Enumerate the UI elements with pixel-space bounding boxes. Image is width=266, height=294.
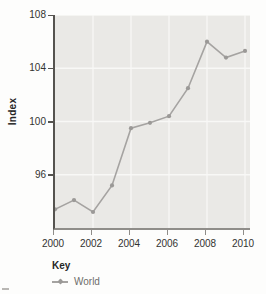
legend-row: World: [52, 276, 100, 287]
x-tick-mark: [91, 230, 93, 235]
line-marker-icon: [52, 278, 68, 285]
x-tick-label: 2008: [188, 238, 222, 249]
y-tick-label: 108: [12, 9, 46, 20]
x-tick-mark: [53, 230, 55, 235]
x-tick-mark: [243, 230, 245, 235]
x-tick-label: 2006: [150, 238, 184, 249]
series-line-world: [55, 42, 245, 212]
data-point: [72, 198, 76, 202]
legend-series-label: World: [74, 276, 100, 287]
x-tick-label: 2000: [36, 238, 70, 249]
legend: Key World: [52, 260, 100, 287]
plot-area: [53, 15, 250, 230]
data-point: [91, 210, 95, 214]
data-point: [129, 126, 133, 130]
x-tick-mark: [129, 230, 131, 235]
data-point: [243, 49, 247, 53]
x-tick-mark: [167, 230, 169, 235]
x-tick-label: 2004: [112, 238, 146, 249]
x-tick-label: 2010: [226, 238, 260, 249]
data-point: [205, 40, 209, 44]
x-tick-label: 2002: [74, 238, 108, 249]
x-tick-mark: [205, 230, 207, 235]
y-tick-mark: [48, 68, 53, 70]
legend-title: Key: [52, 260, 100, 271]
data-point: [167, 114, 171, 118]
y-axis-label: Index: [7, 62, 18, 162]
data-point: [148, 121, 152, 125]
data-point: [110, 183, 114, 187]
data-point: [224, 56, 228, 60]
y-tick-label: 100: [12, 116, 46, 127]
chart-figure: Index 10810410096 2000200220042006200820…: [0, 0, 266, 294]
y-tick-mark: [48, 174, 53, 176]
y-tick-mark: [48, 15, 53, 17]
data-point: [186, 86, 190, 90]
page-edge-artifact: [2, 288, 9, 290]
y-tick-label: 104: [12, 62, 46, 73]
y-tick-label: 96: [12, 169, 46, 180]
plot-svg: [55, 15, 250, 228]
y-tick-mark: [48, 121, 53, 123]
